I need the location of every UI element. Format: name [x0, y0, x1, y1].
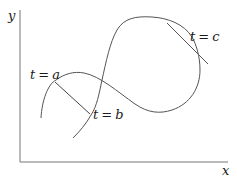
label-t-equals-c: t=c: [190, 29, 220, 44]
parametric-curve-diagram: y x t=a t=b t=c: [0, 0, 237, 176]
chord-a-to-b: [55, 82, 90, 114]
label-t-equals-a: t=a: [30, 67, 60, 82]
y-axis-label: y: [7, 8, 16, 23]
label-t-equals-b: t=b: [93, 107, 123, 122]
svg-text:t=b: t=b: [93, 107, 123, 122]
svg-text:t=c: t=c: [190, 29, 220, 44]
x-axis-label: x: [222, 163, 230, 176]
svg-text:t=a: t=a: [30, 67, 60, 82]
